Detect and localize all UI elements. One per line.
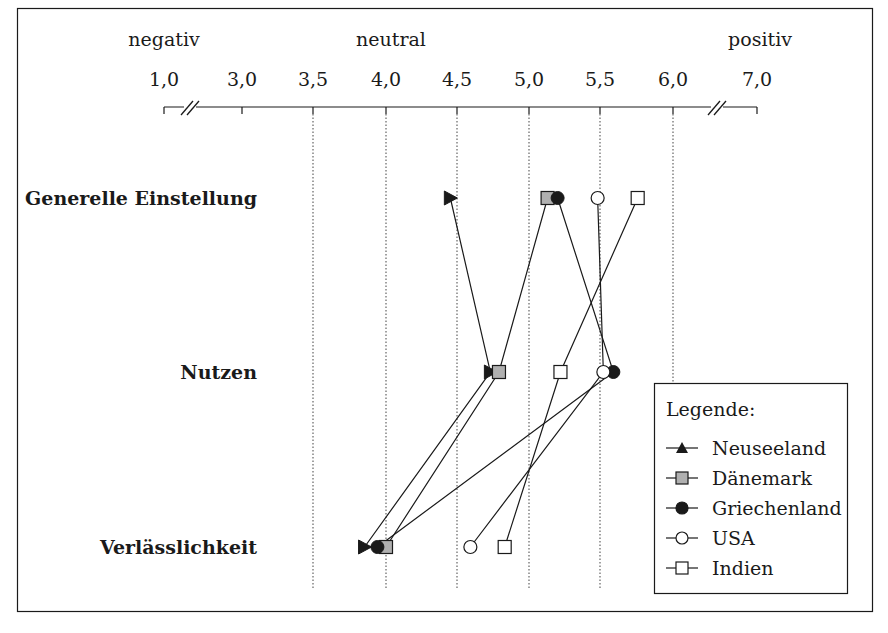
chart-svg: negativneutralpositiv1,03,03,54,04,55,05… xyxy=(0,0,888,633)
legend-entry-label: Griechenland xyxy=(712,497,842,519)
data-point-filled-circle-icon xyxy=(371,541,384,554)
category-label: Generelle Einstellung xyxy=(25,187,257,209)
data-point-open-circle-icon xyxy=(597,366,610,379)
data-point-gray-square-icon xyxy=(492,366,505,379)
legend-entry-label: Dänemark xyxy=(712,467,812,489)
data-point-open-square-icon xyxy=(554,366,567,379)
legend-entry-label: Indien xyxy=(712,557,773,579)
x-tick-label: 3,0 xyxy=(227,68,257,90)
x-tick-label: 5,0 xyxy=(514,68,544,90)
legend-entry-label: USA xyxy=(712,527,755,549)
legend-title: Legende: xyxy=(666,398,755,420)
legend-filled-circle-icon xyxy=(676,502,688,514)
x-tick-label: 4,0 xyxy=(371,68,401,90)
x-tick-label: 1,0 xyxy=(149,68,179,90)
legend-gray-square-icon xyxy=(676,472,688,484)
data-point-open-circle-icon xyxy=(464,541,477,554)
category-label: Nutzen xyxy=(180,361,257,383)
x-tick-label: 3,5 xyxy=(298,68,328,90)
series-line-neuseeland xyxy=(365,198,491,547)
x-tick-label: 5,5 xyxy=(585,68,615,90)
x-tick-label: 6,0 xyxy=(658,68,688,90)
legend-open-circle-icon xyxy=(676,532,688,544)
scale-label-positiv: positiv xyxy=(728,28,792,50)
data-point-open-square-icon xyxy=(631,192,644,205)
scale-label-negativ: negativ xyxy=(128,28,200,50)
chart: negativneutralpositiv1,03,03,54,04,55,05… xyxy=(0,0,888,633)
legend-open-square-icon xyxy=(676,562,688,574)
data-point-filled-circle-icon xyxy=(551,192,564,205)
legend-entry-label: Neuseeland xyxy=(712,437,826,459)
scale-label-neutral: neutral xyxy=(356,28,426,50)
data-point-open-circle-icon xyxy=(591,192,604,205)
data-point-open-square-icon xyxy=(498,541,511,554)
series-line-dänemark xyxy=(386,198,548,547)
data-point-filled-triangle-icon xyxy=(444,191,457,205)
x-tick-label: 7,0 xyxy=(742,68,772,90)
category-label: Verlässlichkeit xyxy=(99,536,257,558)
data-point-filled-triangle-icon xyxy=(359,540,372,554)
x-tick-label: 4,5 xyxy=(442,68,472,90)
